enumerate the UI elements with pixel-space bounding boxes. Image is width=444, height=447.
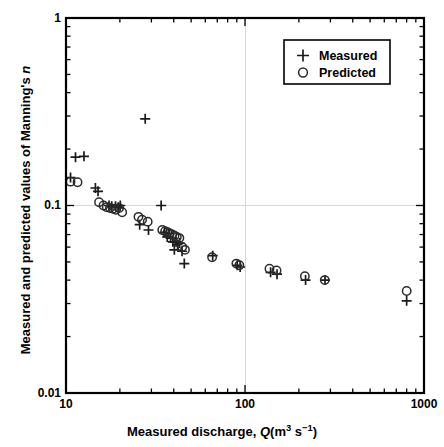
chart-figure: Measured Predicted 10 100 1000 1 0.1 0.0… bbox=[0, 0, 444, 447]
x-tick-label-1000: 1000 bbox=[394, 397, 444, 411]
y-axis-title-wrapper: Measured and predicted values of Manning… bbox=[16, 10, 36, 410]
x-tick-label-100: 100 bbox=[215, 397, 275, 411]
x-axis-units-mid: s bbox=[291, 424, 302, 439]
legend-label-measured: Measured bbox=[319, 49, 377, 63]
x-axis-units-open: (m bbox=[270, 424, 286, 439]
x-axis-title: Measured discharge, Q(m3 s−1) bbox=[0, 423, 444, 439]
x-axis-units-close: ) bbox=[313, 424, 317, 439]
scatter-plot-canvas: Measured Predicted bbox=[0, 0, 444, 447]
legend-label-predicted: Predicted bbox=[319, 66, 376, 80]
x-axis-symbol: Q bbox=[260, 424, 270, 439]
x-axis-title-main: Measured discharge, bbox=[127, 424, 256, 439]
legend[interactable]: Measured Predicted bbox=[284, 40, 390, 84]
y-axis-title: Measured and predicted values of Manning… bbox=[18, 66, 33, 354]
y-axis-title-main: Measured and predicted values of Manning… bbox=[18, 77, 33, 354]
x-axis-units-exp2: −1 bbox=[302, 423, 313, 433]
y-axis-symbol: n bbox=[18, 66, 33, 74]
